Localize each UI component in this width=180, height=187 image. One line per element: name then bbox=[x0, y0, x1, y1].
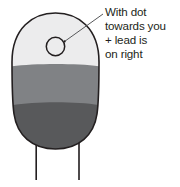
callout-label: With dot towards you + lead is on right bbox=[105, 5, 180, 61]
leader-tip bbox=[64, 40, 66, 42]
callout-line-3: + lead is bbox=[105, 33, 180, 47]
callout-line-4: on right bbox=[105, 47, 180, 61]
callout-line-1: With dot bbox=[105, 5, 180, 19]
lead-right bbox=[78, 140, 80, 180]
middle-band bbox=[8, 64, 104, 106]
thermistor-orientation-diagram: With dot towards you + lead is on right bbox=[0, 0, 180, 187]
polarity-dot-icon bbox=[46, 37, 64, 55]
callout-line-2: towards you bbox=[105, 19, 180, 33]
bottom-band bbox=[8, 102, 104, 155]
